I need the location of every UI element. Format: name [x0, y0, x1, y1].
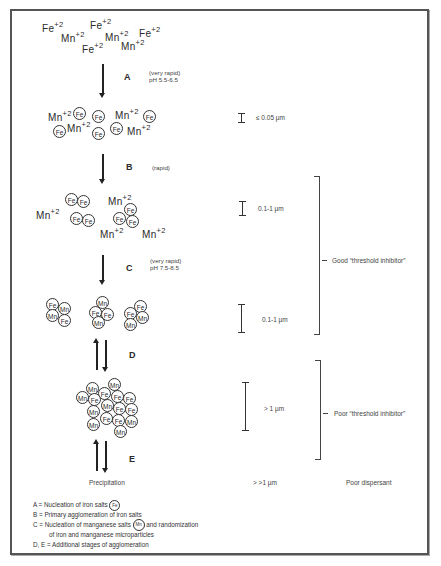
ion-mn: Mn+2 [142, 227, 166, 240]
fe-particle: Fe [92, 110, 105, 123]
arrow-down-icon [102, 154, 104, 180]
arrow-down-icon [105, 340, 107, 368]
fe-particle: Fe [58, 314, 71, 327]
legend-item-b: B = Primary agglomeration of iron salts [33, 511, 198, 519]
fe-particle: Fe [73, 107, 86, 120]
bracket-good [314, 176, 320, 335]
ion-mn: Mn+2 [115, 108, 139, 121]
ion-mn: Mn+2 [121, 39, 145, 52]
fe-particle: Fe [88, 393, 101, 406]
good-threshold-inhibitor-label: Good “threshold inhibitor” [332, 257, 405, 264]
bracket-poor [315, 360, 321, 460]
ion-mn: Mn+2 [127, 124, 151, 137]
step-c-note: (very rapid)pH 7.5-8.5 [150, 257, 181, 271]
fe-particle: Fe [110, 122, 123, 135]
size-bar [241, 113, 242, 123]
size-label-1: ≤ 0.05 µm [256, 114, 285, 121]
step-b-note: (rapid) [152, 164, 170, 171]
arrow-down-icon [102, 255, 104, 281]
mn-particle: Mn [114, 425, 127, 438]
mn-particle: Mn [92, 316, 105, 329]
fe-particle: Fe [77, 195, 90, 208]
poor-dispersant-label: Poor dispersant [346, 479, 392, 486]
size-label-3: 0.1-1 µm [262, 316, 288, 323]
ion-fe: Fe+2 [82, 42, 103, 55]
size-label-5: > >1 µm [253, 479, 277, 486]
diagram-frame [10, 9, 429, 555]
bracket-tick [323, 413, 328, 414]
mn-particle: Mn [87, 418, 100, 431]
step-label-d: D [129, 350, 136, 360]
fe-particle: Fe [113, 212, 126, 225]
fe-particle: Fe [126, 215, 139, 228]
fe-particle: Fe [124, 203, 137, 216]
fe-particle: Fe [100, 412, 113, 425]
size-bar [241, 304, 242, 333]
step-label-b: B [126, 162, 133, 172]
mn-particle: Mn [125, 415, 138, 428]
fe-particle-icon: Fe [109, 500, 120, 511]
size-label-4: > 1 µm [264, 405, 284, 412]
legend-item-c-cont: of iron and manganese microparticles [33, 531, 198, 539]
size-label-2: 0.1-1 µm [258, 205, 284, 212]
step-label-c: C [126, 263, 133, 273]
fe-particle: Fe [65, 193, 78, 206]
ion-mn: Mn+2 [36, 208, 60, 221]
legend-item-a: A = Nucleation of iron salts Fe [33, 500, 198, 511]
arrow-up-icon [96, 443, 98, 471]
mn-particle: Mn [87, 405, 100, 418]
legend-item-de: D, E = Additional stages of agglomeratio… [33, 541, 198, 549]
ion-mn: Mn+2 [100, 227, 124, 240]
arrow-down-icon [105, 441, 107, 469]
size-bar [245, 382, 246, 431]
fe-particle: Fe [70, 212, 83, 225]
arrow-up-icon [96, 342, 98, 370]
mn-particle: Mn [76, 391, 89, 404]
arrow-down-icon [102, 64, 104, 94]
size-bar [242, 201, 243, 216]
ion-mn: Mn+2 [67, 121, 91, 134]
step-label-e: E [129, 454, 135, 464]
precipitation-label: Precipitation [89, 479, 125, 486]
fe-particle: Fe [82, 214, 95, 227]
mn-particle-icon: Mn [133, 519, 145, 531]
fe-particle: Fe [143, 110, 156, 123]
legend: A = Nucleation of iron salts Fe B = Prim… [33, 500, 198, 549]
legend-item-c: C = Nucleation of manganese salts Mn and… [33, 519, 198, 531]
step-label-a: A [124, 72, 131, 82]
mn-particle: Mn [136, 311, 149, 324]
bracket-tick [322, 260, 327, 261]
poor-threshold-inhibitor-label: Poor “threshold inhibitor” [334, 410, 405, 417]
step-a-note: (very rapid)pH 5.5-6.5 [149, 69, 180, 83]
fe-particle: Fe [53, 125, 66, 138]
fe-particle: Fe [92, 127, 105, 140]
mn-particle: Mn [101, 399, 114, 412]
mn-particle: Mn [124, 318, 137, 331]
